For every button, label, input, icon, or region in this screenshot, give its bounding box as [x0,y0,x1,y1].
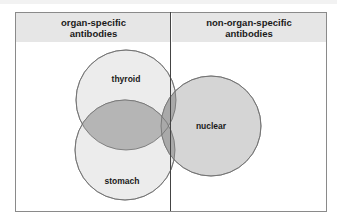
label-thyroid: thyroid [112,74,141,84]
venn-svg: thyroid stomach nuclear [0,0,337,223]
label-stomach: stomach [105,176,140,186]
label-nuclear: nuclear [196,121,227,131]
